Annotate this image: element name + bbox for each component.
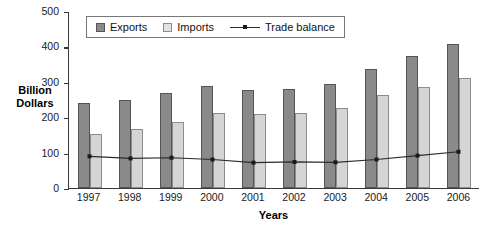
trade-balance-marker — [457, 150, 461, 154]
plot-area: 0100200300400500 — [68, 12, 479, 189]
legend-item-trade-balance: Trade balance — [230, 21, 335, 33]
legend-label-imports: Imports — [177, 21, 214, 33]
x-axis-title: Years — [68, 209, 479, 221]
x-axis-tick-label: 1997 — [68, 191, 109, 203]
trade-balance-marker — [170, 156, 174, 160]
y-axis-tick-label: 400 — [41, 40, 59, 52]
legend-item-exports: Exports — [96, 21, 147, 33]
x-axis-tick-label: 2003 — [315, 191, 356, 203]
y-axis-tick-label: 200 — [41, 111, 59, 123]
x-axis-tick-label: 2000 — [191, 191, 232, 203]
y-axis-tick: 200 — [37, 118, 69, 119]
square-swatch-light-icon — [163, 23, 172, 32]
trade-balance-marker — [334, 160, 338, 164]
x-axis-tick-label: 2002 — [273, 191, 314, 203]
chart-legend: Exports Imports Trade balance — [86, 16, 345, 38]
x-axis-tick-label: 2006 — [438, 191, 479, 203]
x-axis-tick-labels: 1997199819992000200120022003200420052006 — [68, 191, 479, 203]
y-axis-title: Billion Dollars — [6, 84, 64, 110]
y-axis-tick-label: 500 — [41, 5, 59, 17]
trade-balance-marker — [88, 154, 92, 158]
y-axis-tick: 0 — [37, 189, 69, 190]
legend-item-imports: Imports — [163, 21, 214, 33]
trade-balance-marker — [211, 157, 215, 161]
y-axis-tick: 100 — [37, 154, 69, 155]
x-axis-tick-label: 2004 — [356, 191, 397, 203]
y-axis-tick: 500 — [37, 12, 69, 13]
trade-balance-polyline — [90, 152, 459, 163]
x-axis-tick-label: 1999 — [150, 191, 191, 203]
legend-label-trade-balance: Trade balance — [265, 21, 335, 33]
y-axis-tick-mark — [64, 189, 69, 190]
trade-balance-marker — [252, 161, 256, 165]
y-axis-tick: 300 — [37, 83, 69, 84]
y-axis-tick: 400 — [37, 47, 69, 48]
line-marker-icon — [230, 23, 260, 32]
trade-balance-marker — [293, 160, 297, 164]
y-axis-tick-label: 300 — [41, 76, 59, 88]
x-axis-tick-label: 1998 — [109, 191, 150, 203]
trade-balance-marker — [416, 154, 420, 158]
y-axis-tick-label: 0 — [53, 182, 59, 194]
trade-balance-marker — [129, 156, 133, 160]
trade-bar-chart: Billion Dollars 0100200300400500 1997199… — [0, 0, 489, 237]
x-axis-tick-label: 2005 — [397, 191, 438, 203]
y-axis-tick-label: 100 — [41, 147, 59, 159]
y-axis-title-line-2: Dollars — [6, 97, 64, 110]
trade-balance-marker — [375, 157, 379, 161]
trade-balance-line — [69, 12, 479, 188]
x-axis-tick-label: 2001 — [232, 191, 273, 203]
legend-label-exports: Exports — [110, 21, 147, 33]
square-swatch-dark-icon — [96, 23, 105, 32]
